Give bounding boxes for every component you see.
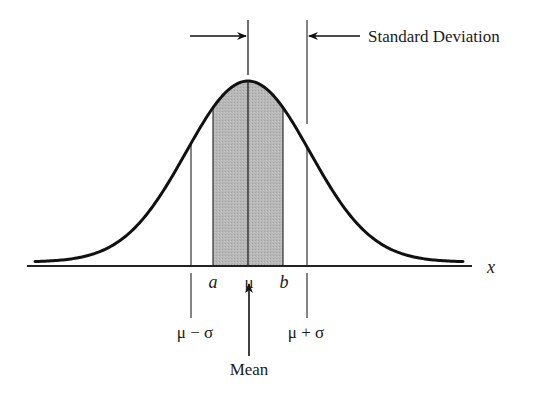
mu-plus-sigma-label: μ + σ <box>288 323 324 342</box>
label-b: b <box>280 272 289 292</box>
x-axis-label: x <box>486 257 495 277</box>
mean-label: Mean <box>230 360 269 379</box>
mu-minus-sigma-label: μ − σ <box>177 323 213 342</box>
standard-deviation-label: Standard Deviation <box>368 27 500 46</box>
label-a: a <box>209 272 218 292</box>
label-mu: μ <box>244 273 253 292</box>
normal-distribution-diagram: Standard Deviation a μ b x μ − σ μ + σ M… <box>0 0 544 395</box>
